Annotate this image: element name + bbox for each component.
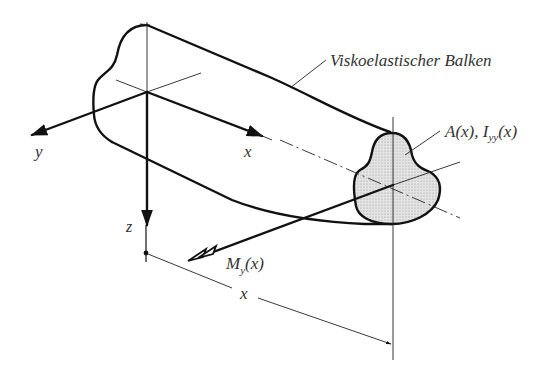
moment-label: My(x) xyxy=(225,254,264,276)
dimension-line xyxy=(148,254,391,344)
y-axis-arrow xyxy=(32,92,147,135)
dimension-x-label: x xyxy=(239,284,248,303)
x-axis-arrow xyxy=(147,92,262,136)
x-axis-label: x xyxy=(243,142,252,161)
beam-diagram: Viskoelastischer Balken A(x), Iyy(x) My(… xyxy=(0,0,551,379)
left-coordinate-system xyxy=(32,22,272,262)
reference-point xyxy=(144,251,149,256)
beam-label-leader xyxy=(290,60,326,88)
cross-section xyxy=(354,133,440,224)
z-axis-label: z xyxy=(125,218,133,235)
section-label-leader xyxy=(405,131,440,155)
section-properties-label: A(x), Iyy(x) xyxy=(444,122,517,143)
beam-label: Viskoelastischer Balken xyxy=(330,51,492,70)
y-axis-label: y xyxy=(33,142,43,161)
